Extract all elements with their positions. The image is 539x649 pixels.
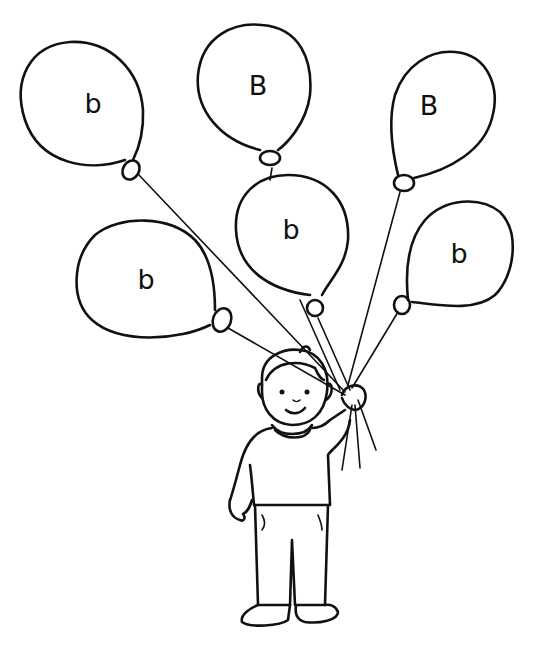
balloon-illustration — [0, 0, 539, 649]
balloon-letter-top-left: b — [84, 90, 101, 117]
balloon-letter-top-center: B — [249, 72, 268, 99]
balloon-letter-middle-right: b — [450, 240, 467, 267]
boy-figure — [229, 346, 365, 625]
balloon-letter-middle-center: b — [282, 216, 299, 243]
balloon-letter-middle-left: b — [137, 266, 154, 293]
coloring-page: b B B b b b — [0, 0, 539, 649]
balloon-middle-left — [77, 221, 235, 338]
balloon-top-right — [391, 52, 494, 191]
balloon-strings — [138, 168, 400, 470]
balloon-top-left — [21, 42, 143, 183]
balloon-letter-top-right: B — [420, 92, 439, 119]
